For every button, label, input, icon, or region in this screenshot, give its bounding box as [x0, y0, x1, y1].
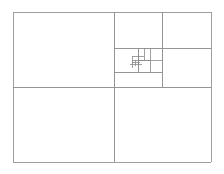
- diagram-canvas: [0, 0, 224, 174]
- fibonacci-subdivision-figure: [0, 0, 224, 174]
